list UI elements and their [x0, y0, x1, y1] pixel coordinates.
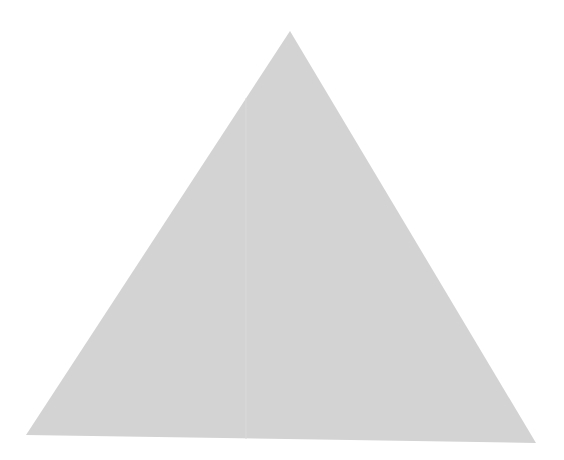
triangle-graphic: [0, 0, 564, 460]
canvas: [0, 0, 564, 460]
gray-triangle: [26, 31, 536, 443]
